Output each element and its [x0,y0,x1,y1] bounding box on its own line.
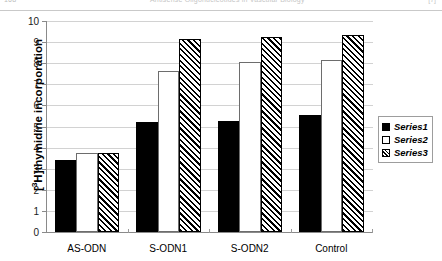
bar-control-series3 [342,35,364,232]
y-tick-mark [42,148,46,149]
chapter-marker: [7] [428,0,436,3]
x-tick-mark [372,229,373,233]
y-tick-mark [42,169,46,170]
gridline [47,21,373,22]
bar-s-odn2-series2 [239,62,261,232]
plot-area: 012345678910 AS-ODNS-ODN1S-ODN2Control [46,21,372,232]
x-tick-label-as-odn: AS-ODN [67,243,106,254]
bar-chart: [3H]thymidine incorporation 012345678910… [0,12,442,261]
x-tick-mark [291,229,292,233]
bar-as-odn-series3 [98,153,120,232]
y-tick-mark [42,211,46,212]
y-tick-label: 2 [33,184,39,195]
y-tick-mark [42,21,46,22]
legend-label-series1: Series1 [394,121,428,132]
y-tick-label: 4 [33,142,39,153]
legend-item-series3: Series3 [382,146,428,159]
legend-label-series3: Series3 [394,147,428,158]
running-title: Antisense Oligonucleotides in Vascular B… [150,0,305,3]
legend-swatch-series3 [382,149,390,157]
y-tick-mark [42,42,46,43]
legend-swatch-series2 [382,136,390,144]
figure-page: 168 Antisense Oligonucleotides in Vascul… [0,0,442,261]
y-tick-label: 6 [33,100,39,111]
y-tick-mark [42,84,46,85]
y-tick-mark [42,232,46,233]
legend-item-series2: Series2 [382,133,428,146]
bar-s-odn1-series2 [158,71,180,232]
y-tick-mark [42,105,46,106]
x-tick-mark [209,229,210,233]
bar-as-odn-series2 [76,153,98,232]
legend-item-series1: Series1 [382,120,428,133]
y-tick-label: 7 [33,79,39,90]
bar-s-odn1-series3 [179,39,201,232]
y-tick-label: 3 [33,163,39,174]
gridline [47,42,373,43]
y-tick-label: 5 [33,121,39,132]
bar-s-odn2-series3 [261,37,283,232]
bar-as-odn-series1 [55,160,77,232]
bar-control-series1 [299,115,321,232]
x-tick-label-control: Control [315,243,347,254]
y-tick-label: 1 [33,205,39,216]
y-tick-mark [42,63,46,64]
y-tick-mark [42,190,46,191]
x-tick-mark [128,229,129,233]
y-tick-mark [42,127,46,128]
x-tick-label-s-odn2: S-ODN2 [231,243,269,254]
x-tick-label-s-odn1: S-ODN1 [149,243,187,254]
legend-rows: Series1Series2Series3 [382,120,428,159]
y-tick-label: 10 [28,16,39,27]
header-divider [0,10,442,11]
bar-s-odn1-series1 [136,122,158,232]
legend-label-series2: Series2 [394,134,428,145]
bar-s-odn2-series1 [218,121,240,232]
y-tick-label: 9 [33,37,39,48]
chart-legend: Series1Series2Series3 [378,116,433,163]
page-number-left: 168 [4,0,16,3]
bar-control-series2 [321,60,343,232]
legend-swatch-series1 [382,123,390,131]
y-tick-label: 8 [33,58,39,69]
y-tick-label: 0 [33,227,39,238]
